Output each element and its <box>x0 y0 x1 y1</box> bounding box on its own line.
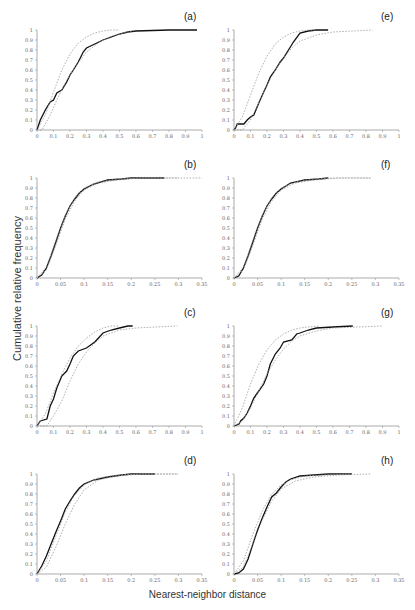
y-tick-label: 0.2 <box>222 551 230 557</box>
y-tick-label: 0.8 <box>222 343 230 349</box>
y-tick-label: 0 <box>227 127 230 133</box>
y-tick-label: 0.4 <box>25 235 33 241</box>
panel-b: 00.10.20.30.40.50.60.70.80.9100.050.10.1… <box>0 148 210 296</box>
panel-label: (a) <box>184 11 196 22</box>
x-tick-label: 0.3 <box>280 133 288 139</box>
series-envelope-lower <box>234 326 383 426</box>
y-tick-label: 0.2 <box>222 255 230 261</box>
x-tick-label: 0.35 <box>393 281 404 287</box>
x-tick-label: 0 <box>35 281 38 287</box>
chart-svg: 00.10.20.30.40.50.60.70.80.9100.050.10.1… <box>0 444 210 592</box>
x-tick-label: 0 <box>35 429 38 435</box>
series-envelope-lower <box>37 178 178 278</box>
series-envelope-upper <box>234 30 317 130</box>
y-tick-label: 0.9 <box>222 481 230 487</box>
y-tick-label: 1 <box>227 323 230 329</box>
x-tick-label: 0.15 <box>102 281 113 287</box>
y-tick-label: 1 <box>30 175 33 181</box>
y-tick-label: 0.9 <box>222 185 230 191</box>
y-tick-label: 0.3 <box>25 245 33 251</box>
y-tick-label: 1 <box>30 27 33 33</box>
y-tick-label: 0 <box>30 127 33 133</box>
series-observed <box>37 178 164 278</box>
panel-label: (g) <box>381 307 393 318</box>
x-tick-label: 0.2 <box>66 133 74 139</box>
y-tick-label: 0.4 <box>25 383 33 389</box>
y-tick-label: 0.2 <box>222 107 230 113</box>
y-tick-label: 1 <box>30 323 33 329</box>
y-tick-label: 0.7 <box>222 501 230 507</box>
y-tick-label: 0.8 <box>25 491 33 497</box>
y-tick-label: 0.7 <box>222 353 230 359</box>
series-envelope-upper <box>234 474 352 574</box>
x-tick-label: 0.3 <box>280 429 288 435</box>
y-tick-label: 0.2 <box>25 107 33 113</box>
y-tick-label: 0.7 <box>25 353 33 359</box>
y-tick-label: 0.5 <box>25 521 33 527</box>
series-envelope-lower <box>234 474 371 574</box>
y-tick-label: 0.4 <box>222 235 230 241</box>
x-tick-label: 0.2 <box>324 577 332 583</box>
y-tick-label: 0.1 <box>25 265 33 271</box>
y-tick-label: 0 <box>227 423 230 429</box>
y-tick-label: 0.8 <box>222 195 230 201</box>
panel-c: 00.10.20.30.40.50.60.70.80.9100.10.20.30… <box>0 296 210 444</box>
x-tick-label: 0.6 <box>132 133 140 139</box>
x-tick-label: 1 <box>397 133 400 139</box>
y-tick-label: 0.3 <box>222 393 230 399</box>
series-observed <box>37 30 197 130</box>
series-envelope-upper <box>37 474 178 574</box>
x-tick-label: 0.1 <box>277 577 285 583</box>
x-tick-label: 0.15 <box>299 577 310 583</box>
y-tick-label: 0.3 <box>25 393 33 399</box>
y-tick-label: 0.8 <box>222 491 230 497</box>
x-tick-label: 0.05 <box>252 577 263 583</box>
y-tick-label: 0.4 <box>222 87 230 93</box>
y-tick-label: 0.3 <box>222 245 230 251</box>
y-tick-label: 0.8 <box>222 47 230 53</box>
series-observed <box>234 326 353 426</box>
x-tick-label: 0.6 <box>329 429 337 435</box>
x-tick-label: 0.1 <box>50 133 58 139</box>
y-tick-label: 0.3 <box>25 97 33 103</box>
y-tick-label: 0.5 <box>222 77 230 83</box>
x-tick-label: 0.2 <box>263 429 271 435</box>
x-tick-label: 0 <box>232 577 235 583</box>
series-envelope-lower <box>37 30 136 130</box>
x-tick-label: 0.15 <box>102 577 113 583</box>
y-tick-label: 0.2 <box>25 551 33 557</box>
y-tick-label: 0.1 <box>222 117 230 123</box>
x-tick-label: 0.9 <box>379 429 387 435</box>
y-tick-label: 0.7 <box>25 501 33 507</box>
series-observed <box>234 474 352 574</box>
x-tick-label: 0.25 <box>346 281 357 287</box>
y-tick-label: 0.1 <box>222 413 230 419</box>
y-tick-label: 0.7 <box>25 57 33 63</box>
series-envelope-lower <box>37 474 178 574</box>
x-tick-label: 0.5 <box>313 133 321 139</box>
x-tick-label: 0.3 <box>83 133 91 139</box>
y-tick-label: 0.1 <box>25 413 33 419</box>
y-tick-label: 0.7 <box>25 205 33 211</box>
panel-label: (h) <box>381 455 393 466</box>
y-tick-label: 0.2 <box>25 403 33 409</box>
series-envelope-upper <box>234 326 320 426</box>
x-tick-label: 0.9 <box>379 133 387 139</box>
panel-f: 00.10.20.30.40.50.60.70.80.9100.050.10.1… <box>197 148 407 296</box>
x-tick-label: 0.6 <box>132 429 140 435</box>
x-tick-label: 0.05 <box>55 577 66 583</box>
y-tick-label: 0.7 <box>222 205 230 211</box>
x-tick-label: 0.25 <box>346 577 357 583</box>
x-tick-label: 0.05 <box>252 281 263 287</box>
x-tick-label: 0.2 <box>66 429 74 435</box>
y-tick-label: 0.4 <box>25 531 33 537</box>
y-tick-label: 0 <box>30 275 33 281</box>
chart-svg: 00.10.20.30.40.50.60.70.80.9100.10.20.30… <box>0 296 210 444</box>
x-tick-label: 0.5 <box>313 429 321 435</box>
x-tick-label: 0.2 <box>127 281 135 287</box>
series-observed <box>234 178 328 278</box>
y-tick-label: 0.9 <box>25 481 33 487</box>
y-tick-label: 0.1 <box>222 561 230 567</box>
x-tick-label: 0.1 <box>80 281 88 287</box>
chart-svg: 00.10.20.30.40.50.60.70.80.9100.10.20.30… <box>197 296 407 444</box>
